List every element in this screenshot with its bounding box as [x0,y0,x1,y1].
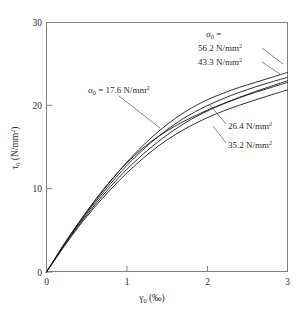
y-tick-10: 10 [33,184,43,194]
value-56-2: 56.2 N/mm [198,43,239,53]
sup-26-4: 2 [269,120,272,127]
leader-43-3 [262,62,280,74]
leader-26-4 [209,104,226,124]
curve-35-2 [47,90,288,272]
shear-stress-strain-chart: 0 10 20 30 0 1 2 3 [0,0,308,311]
x-tick-0: 0 [44,277,49,287]
x-tick-3: 3 [285,277,290,287]
y-axis-title: τ0 (N/mm2) [9,126,21,169]
curve-43-3 [47,77,288,272]
curve-26-4 [47,82,288,272]
annotation-43-3: 43.3 N/mm2 [198,56,242,67]
value-43-3: 43.3 N/mm [198,57,239,67]
sup-43-3: 2 [239,56,242,63]
leader-35-2 [213,126,226,143]
x-axis-tick-labels: 0 1 2 3 [44,277,290,287]
sup-17-6: 2 [147,84,150,91]
value-17-6: 17.6 N/mm [106,85,147,95]
annotation-56-2: 56.2 N/mm2 [198,42,242,53]
annotation-26-4: 26.4 N/mm2 [228,120,272,131]
curve-56-2 [47,72,288,272]
y-axis-tick-labels: 0 10 20 30 [33,18,43,278]
x-axis-title: γ0 (‰) [138,293,165,304]
annotation-sigma-header: σ0 = [206,29,221,40]
y-tick-30: 30 [33,18,43,28]
value-35-2: 35.2 N/mm [228,140,269,150]
annotation-17-6: σ0 = 17.6 N/mm2 [88,84,150,96]
svg-text:τ0 (N/mm2): τ0 (N/mm2) [9,126,21,169]
gamma-unit: (‰) [147,293,165,304]
chart-figure: 0 10 20 30 0 1 2 3 [0,0,308,311]
x-tick-2: 2 [205,277,210,287]
tau-unit: (N/mm [10,132,21,162]
curve-group [47,72,288,272]
sigma-equals-header: = [214,29,221,39]
leader-17-6 [119,96,160,128]
y-axis-ticks [47,23,53,273]
leader-56-2 [262,48,283,64]
x-tick-1: 1 [125,277,130,287]
annotation-35-2: 35.2 N/mm2 [228,139,272,150]
equals-17-6: = [96,85,106,95]
curve-17-6 [47,81,288,272]
tau-unit-close: ) [10,126,21,129]
sup-35-2: 2 [269,139,272,146]
sup-56-2: 2 [239,42,242,49]
y-tick-0: 0 [37,268,42,278]
svg-text:γ0 (‰): γ0 (‰) [138,293,165,304]
y-tick-20: 20 [33,101,43,111]
value-26-4: 26.4 N/mm [228,121,269,131]
